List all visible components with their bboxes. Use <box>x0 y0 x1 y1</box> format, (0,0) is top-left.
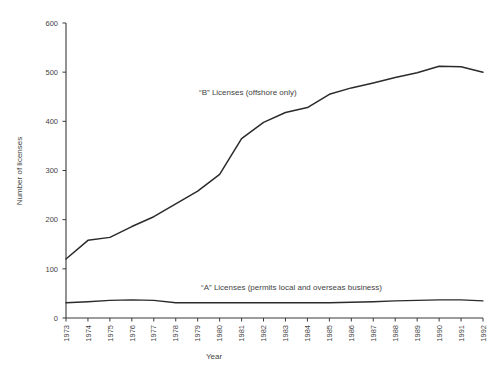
x-axis-tick-label: 1976 <box>128 325 137 342</box>
x-axis-tick-label: 1981 <box>237 325 246 342</box>
y-axis-title: Number of licenses <box>15 137 24 205</box>
x-axis-tick-group: 1973197419751976197719781979198019811982… <box>62 318 488 342</box>
x-axis-tick-label: 1987 <box>369 325 378 342</box>
x-axis-title: Year <box>206 352 223 361</box>
x-axis-tick-label: 1992 <box>479 325 488 342</box>
y-axis-tick-label: 500 <box>45 68 58 77</box>
y-axis-tick-group: 0100200300400500600 <box>45 19 66 323</box>
y-axis-tick-label: 300 <box>45 166 58 175</box>
y-axis-tick-label: 200 <box>45 215 58 224</box>
x-axis-tick-label: 1984 <box>303 325 312 342</box>
x-axis-tick-label: 1974 <box>84 325 93 342</box>
y-axis-tick-label: 0 <box>54 314 58 323</box>
x-axis-tick-label: 1990 <box>435 325 444 342</box>
x-axis-tick-label: 1973 <box>62 325 71 342</box>
series-a-annotation-label: “A” Licenses (permits local and overseas… <box>201 283 382 292</box>
x-axis-tick-label: 1983 <box>281 325 290 342</box>
line-chart: 0100200300400500600 19731974197519761977… <box>0 0 504 375</box>
x-axis-tick-label: 1982 <box>259 325 268 342</box>
x-axis-tick-label: 1985 <box>325 325 334 342</box>
x-axis-tick-label: 1980 <box>215 325 224 342</box>
x-axis-tick-label: 1975 <box>106 325 115 342</box>
y-axis-tick-label: 600 <box>45 19 58 28</box>
x-axis-tick-label: 1977 <box>149 325 158 342</box>
y-axis-tick-label: 100 <box>45 265 58 274</box>
x-axis-tick-label: 1991 <box>457 325 466 342</box>
x-axis-tick-label: 1988 <box>391 325 400 342</box>
chart-container: 0100200300400500600 19731974197519761977… <box>0 0 504 375</box>
x-axis-tick-label: 1989 <box>413 325 422 342</box>
series-b-annotation-label: “B” Licenses (offshore only) <box>199 88 297 97</box>
series-line-a-licenses <box>66 300 483 303</box>
y-axis-tick-label: 400 <box>45 117 58 126</box>
x-axis-tick-label: 1986 <box>347 325 356 342</box>
x-axis-tick-label: 1979 <box>193 325 202 342</box>
x-axis-tick-label: 1978 <box>171 325 180 342</box>
